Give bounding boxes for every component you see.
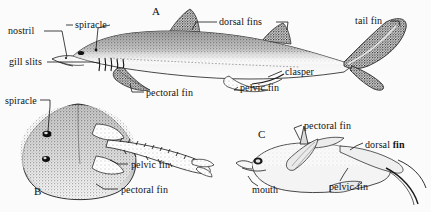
- label-pelvic-fin-c: pelvic fin: [329, 182, 368, 192]
- figure-letter-b: B: [34, 186, 41, 197]
- label-dorsal-fin-c-bold: fin: [393, 139, 405, 150]
- label-pelvic-fin-b: pelvic fin: [131, 160, 170, 170]
- label-gill-slits: gill slits: [9, 57, 42, 67]
- figure-letter-a: A: [152, 6, 160, 17]
- label-dorsal-fin-c: dorsal fin: [365, 140, 405, 150]
- label-dorsal-fin-c-text: dorsal: [365, 139, 393, 150]
- label-mouth: mouth: [252, 185, 278, 195]
- label-pectoral-fin-c: pectoral fin: [304, 121, 351, 131]
- label-clasper: clasper: [285, 67, 314, 77]
- label-pelvic-fin-a: pelvic fin: [240, 83, 279, 93]
- label-spiracle-b: spiracle: [5, 96, 37, 106]
- label-pectoral-fin-b: pectoral fin: [121, 185, 168, 195]
- figure-letter-c: C: [258, 129, 265, 140]
- label-spiracle-a: spiracle: [75, 20, 107, 30]
- label-pectoral-fin-a: pectoral fin: [146, 88, 193, 98]
- figure-b-ray-drawing: [18, 100, 214, 204]
- label-dorsal-fins-a: dorsal fins: [219, 17, 262, 27]
- label-nostril: nostril: [8, 26, 34, 36]
- anatomy-plate: A B C nostril spiracle gill slits pector…: [0, 0, 431, 212]
- label-tail-fin: tail fin: [355, 16, 382, 26]
